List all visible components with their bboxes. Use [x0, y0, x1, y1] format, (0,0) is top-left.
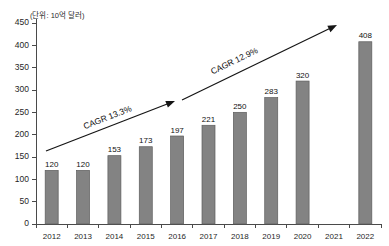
x-axis-tick-label: 2020 — [294, 232, 312, 241]
bar — [139, 147, 152, 224]
y-axis-tick-label: 0 — [24, 218, 29, 228]
x-axis: 2012201320142015201620172018201920202021… — [36, 224, 381, 241]
bar-value-label: 153 — [108, 145, 122, 154]
unit-note: (단위: 10억 달러) — [30, 10, 85, 20]
y-axis-tick-label: 100 — [15, 174, 29, 184]
y-axis-tick-label: 400 — [15, 40, 29, 50]
bar-value-label: 250 — [233, 102, 247, 111]
y-axis-tick-label: 350 — [15, 62, 29, 72]
x-axis-tick-label: 2017 — [200, 232, 218, 241]
x-axis-tick-label: 2014 — [106, 232, 124, 241]
bar-value-label: 120 — [76, 160, 90, 169]
unit-note-text: (단위: 10억 달러) — [30, 10, 85, 20]
bar — [202, 125, 215, 224]
chart-page: (단위: 10억 달러) 050100150200250300350400450… — [0, 0, 389, 246]
bar-value-label: 197 — [170, 126, 184, 135]
x-axis-tick-label: 2019 — [262, 232, 280, 241]
y-axis-tick-label: 200 — [15, 129, 29, 139]
bar — [45, 170, 58, 224]
bar — [265, 98, 278, 224]
bar — [77, 170, 90, 224]
x-axis-tick-label: 2018 — [231, 232, 249, 241]
x-axis-tick-label: 2013 — [74, 232, 92, 241]
cagr-second-period-arrow — [182, 25, 337, 100]
bar-value-label: 173 — [139, 136, 153, 145]
y-axis-tick-label: 450 — [15, 17, 29, 27]
cagr-first-period-arrow — [46, 101, 175, 151]
bar — [233, 112, 246, 224]
bar-value-label: 221 — [202, 115, 216, 124]
bar-value-label: 283 — [265, 87, 279, 96]
x-axis-tick-label: 2015 — [137, 232, 155, 241]
y-axis-tick-label: 300 — [15, 84, 29, 94]
y-axis-tick-label: 150 — [15, 151, 29, 161]
x-axis-tick-label: 2021 — [325, 232, 343, 241]
x-axis-tick-label: 2012 — [43, 232, 61, 241]
y-axis: 050100150200250300350400450 — [15, 17, 36, 228]
bar — [359, 42, 372, 224]
bar — [296, 81, 309, 224]
bar-value-label: 320 — [296, 71, 310, 80]
bar-chart: (단위: 10억 달러) 050100150200250300350400450… — [0, 0, 389, 246]
bar-value-label: 120 — [45, 160, 59, 169]
y-axis-tick-label: 250 — [15, 107, 29, 117]
x-axis-tick-label: 2016 — [168, 232, 186, 241]
y-axis-tick-label: 50 — [20, 196, 30, 206]
bar — [108, 156, 121, 224]
x-axis-tick-label: 2022 — [356, 232, 374, 241]
bar-value-label: 408 — [359, 31, 373, 40]
cagr-second-period-label: CAGR 12.9% — [209, 45, 260, 76]
annotation-layer: CAGR 13.3%CAGR 12.9% — [46, 25, 337, 151]
bar — [171, 136, 184, 224]
